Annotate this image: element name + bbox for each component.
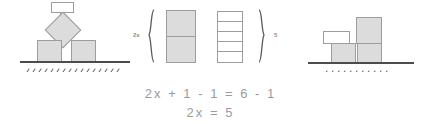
left-base-square-1 <box>37 40 62 62</box>
hatch-marks-icon <box>26 68 122 72</box>
gray-bar-segment <box>167 37 195 63</box>
brace-right-icon <box>258 9 266 63</box>
equation-block: 2x + 1 - 1 = 6 - 1 2x = 5 <box>0 84 421 122</box>
left-quantity-tag: 2x <box>133 32 140 38</box>
white-bar-segment <box>218 12 242 22</box>
white-bar-five-segments <box>217 11 243 63</box>
left-base-square-2 <box>71 40 96 62</box>
equation-line-2: 2x = 5 <box>0 103 421 122</box>
right-base-square-1 <box>331 43 356 63</box>
right-ground-hatch <box>324 64 390 72</box>
middle-figure: 2x 5 <box>130 0 290 80</box>
white-bar-segment <box>218 22 242 32</box>
gray-bar-segment <box>167 11 195 37</box>
gray-bar-two-segments <box>166 10 196 63</box>
diagram-canvas: 2x 5 <box>0 0 421 127</box>
equation-line-1: 2x + 1 - 1 = 6 - 1 <box>0 84 421 103</box>
hatch-marks-icon <box>324 70 390 72</box>
right-quantity-tag: 5 <box>274 32 277 38</box>
right-tall-gray-rectangle <box>356 17 382 44</box>
right-base-square-2 <box>357 43 382 63</box>
opening-brace <box>147 9 155 63</box>
left-ground-hatch <box>26 63 122 72</box>
closing-brace <box>258 9 266 63</box>
white-bar-segment <box>218 52 242 62</box>
right-figure <box>290 0 421 80</box>
white-bar-segment <box>218 32 242 42</box>
left-figure <box>0 0 130 80</box>
brace-left-icon <box>147 9 155 63</box>
white-bar-segment <box>218 42 242 52</box>
